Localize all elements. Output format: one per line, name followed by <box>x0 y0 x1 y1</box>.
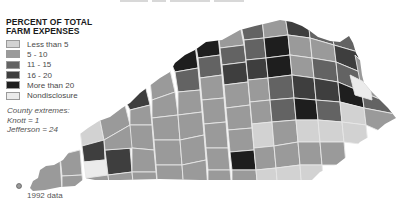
extremes-heading: County extremes: <box>7 106 70 116</box>
data-year-note: 1992 data <box>27 191 63 200</box>
extremes-min: Knott = 1 <box>7 116 70 126</box>
kentucky-county-map <box>0 0 406 209</box>
river-loop-marker <box>17 184 22 189</box>
county-extremes-note: County extremes: Knott = 1 Jefferson = 2… <box>7 106 70 135</box>
extremes-max: Jefferson = 24 <box>7 125 70 135</box>
